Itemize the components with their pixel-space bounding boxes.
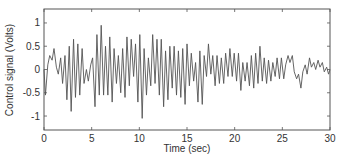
- x-tick-label: 10: [134, 133, 146, 144]
- x-tick-label: 25: [277, 133, 289, 144]
- x-tick-label: 5: [89, 133, 95, 144]
- x-tick-label: 30: [324, 133, 336, 144]
- x-tick-label: 0: [41, 133, 47, 144]
- y-tick-label: 0: [34, 64, 40, 75]
- line-chart: 051015202530 10.50-0.5-1 Time (sec) Cont…: [0, 0, 349, 157]
- x-tick-label: 20: [229, 133, 241, 144]
- y-tick-label: -0.5: [23, 87, 41, 98]
- y-tick-label: 1: [34, 17, 40, 28]
- y-tick-label: 0.5: [26, 41, 40, 52]
- plot-area: [44, 9, 330, 130]
- x-axis-label: Time (sec): [164, 143, 211, 154]
- y-tick-label: -1: [31, 111, 40, 122]
- y-axis-label: Control signal (Volts): [4, 24, 15, 116]
